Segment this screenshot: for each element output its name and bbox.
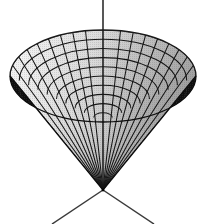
figure-root: Wireframe mesh surface of a double cone … [0,0,206,224]
cone-surface-svg [0,0,206,224]
cone-apex [102,189,105,192]
